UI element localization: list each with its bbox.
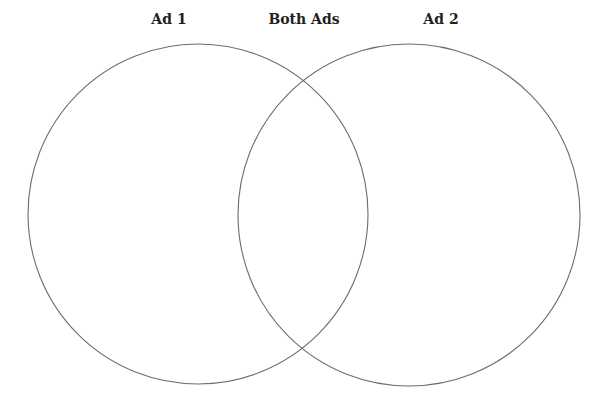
ad-1-label: Ad 1 bbox=[151, 10, 186, 28]
both-ads-label: Both Ads bbox=[268, 10, 339, 28]
venn-circles bbox=[0, 0, 614, 416]
ad-1-circle bbox=[28, 44, 368, 384]
ad-2-circle bbox=[238, 44, 580, 386]
ad-2-label: Ad 2 bbox=[423, 10, 458, 28]
